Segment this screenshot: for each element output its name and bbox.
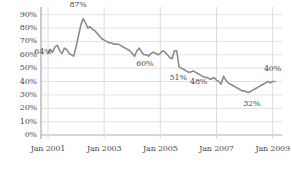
y-tick-label: 20%: [20, 103, 37, 112]
x-tick-label: Jan 2005: [130, 144, 190, 153]
y-tick-label: 70%: [20, 36, 37, 45]
x-tick-label: Jan 2007: [186, 144, 246, 153]
y-tick-label: 90%: [20, 10, 37, 19]
data-label: 51%: [170, 73, 187, 82]
data-label: 64%: [34, 47, 51, 56]
y-tick-label: 10%: [20, 117, 37, 126]
x-tick-label: Jan 2001: [18, 144, 78, 153]
data-label: 48%: [190, 77, 207, 86]
line-chart: 90%80%70%60%50%40%30%20%10%0% Jan 2001Ja…: [0, 0, 292, 169]
data-label: 87%: [69, 0, 86, 9]
data-label: 40%: [264, 64, 281, 73]
data-label: 60%: [136, 59, 153, 68]
y-tick-label: 40%: [20, 77, 37, 86]
x-tick-label: Jan 2009: [243, 144, 292, 153]
x-tick-label: Jan 2003: [74, 144, 134, 153]
y-tick-label: 30%: [20, 90, 37, 99]
y-tick-label: 50%: [20, 63, 37, 72]
data-label: 32%: [243, 99, 260, 108]
y-tick-label: 80%: [20, 23, 37, 32]
grid-lines: [41, 7, 282, 139]
y-tick-label: 0%: [25, 130, 37, 139]
